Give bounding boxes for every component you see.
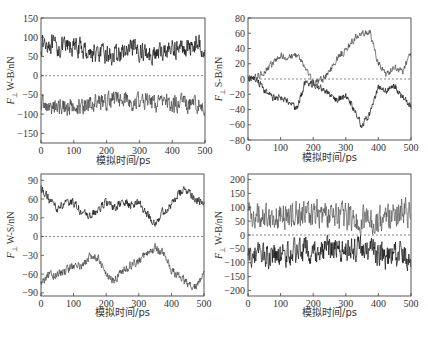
x-tick-label: 400: [164, 298, 179, 309]
y-tick-label: 150: [230, 188, 245, 199]
y-tick-label: −30: [22, 250, 38, 261]
y-axis-subscript: ⊥: [11, 246, 19, 252]
x-tick-label: 100: [273, 298, 288, 309]
figure-panels: 0100200300400500150100500−50−100−150模拟时间…: [0, 0, 428, 338]
y-axis-subscript: ⊥: [11, 92, 19, 98]
y-tick-label: −80: [229, 135, 245, 146]
series-line-upper: [41, 35, 205, 66]
y-axis-title: F⊥W-B/nN: [213, 211, 227, 260]
x-tick-label: 500: [198, 145, 213, 156]
y-tick-label: −100: [224, 257, 245, 268]
x-tick-label: 0: [39, 298, 44, 309]
x-tick-label: 400: [371, 298, 386, 309]
series-line-lower: [41, 243, 204, 290]
y-tick-label: −20: [229, 89, 245, 100]
y-tick-label: 30: [28, 212, 38, 223]
x-tick-label: 500: [404, 142, 419, 153]
y-tick-label: −60: [22, 269, 38, 280]
y-tick-label: −60: [229, 119, 245, 130]
x-tick-label: 500: [404, 298, 419, 309]
x-tick-label: 0: [246, 142, 251, 153]
y-tick-label: 50: [28, 51, 38, 62]
x-axis-title: 模拟时间/ps: [302, 306, 357, 318]
x-axis-title: 模拟时间/ps: [95, 306, 150, 318]
y-axis-subscript: ⊥: [219, 89, 227, 95]
y-tick-label: −90: [22, 287, 38, 298]
y-tick-label: 0: [33, 70, 38, 81]
y-tick-label: 40: [235, 43, 245, 54]
y-tick-label: 60: [28, 194, 38, 205]
series-line-lower: [248, 76, 411, 128]
panel-c: 01002003004005009060300−30−60−90模拟时间/psF…: [5, 174, 212, 318]
panel-d: 0100200300400500200150100500−50−100−150−…: [213, 174, 419, 318]
y-tick-label: −100: [17, 109, 38, 120]
y-tick-label: −150: [224, 271, 245, 282]
series-line-lower: [41, 91, 205, 116]
y-axis-unit: S-B/nN: [213, 57, 224, 88]
y-axis-unit: W-B/nN: [5, 57, 16, 91]
y-tick-label: −200: [224, 285, 245, 296]
panel-a: 0100200300400500150100500−50−100−150模拟时间…: [5, 13, 213, 167]
y-tick-label: 0: [33, 231, 38, 242]
y-tick-label: −150: [17, 128, 38, 139]
y-tick-label: −50: [229, 243, 245, 254]
y-tick-label: 100: [23, 32, 38, 43]
y-tick-label: −40: [229, 104, 245, 115]
y-tick-label: 150: [23, 13, 38, 24]
series-line-upper: [41, 186, 204, 227]
x-tick-label: 0: [246, 298, 251, 309]
y-axis-title: F⊥W-S/nN: [5, 212, 19, 260]
y-tick-label: 60: [235, 28, 245, 39]
y-tick-label: 0: [240, 74, 245, 85]
x-axis-title: 模拟时间/ps: [96, 154, 151, 166]
y-tick-label: 90: [28, 175, 38, 186]
x-tick-label: 100: [66, 298, 81, 309]
series-line-upper: [248, 30, 411, 86]
y-tick-label: 100: [230, 202, 245, 213]
y-tick-label: −50: [22, 89, 38, 100]
y-tick-label: 200: [230, 174, 245, 185]
y-axis-unit: W-B/nN: [213, 211, 224, 245]
series-line-upper: [248, 197, 411, 234]
x-tick-label: 500: [197, 298, 212, 309]
x-axis-title: 模拟时间/ps: [302, 151, 357, 163]
x-tick-label: 400: [165, 145, 180, 156]
y-axis-title: F⊥W-B/nN: [5, 57, 19, 106]
x-tick-label: 400: [371, 142, 386, 153]
y-tick-label: 50: [235, 216, 245, 227]
series-line-lower: [248, 235, 411, 271]
y-axis-unit: W-S/nN: [5, 212, 16, 245]
x-tick-label: 100: [273, 142, 288, 153]
y-axis-subscript: ⊥: [219, 247, 227, 253]
x-tick-label: 100: [66, 145, 81, 156]
y-axis-title: F⊥S-B/nN: [213, 57, 227, 103]
y-tick-label: 20: [235, 58, 245, 69]
y-tick-label: 0: [240, 230, 245, 241]
y-tick-label: 80: [235, 13, 245, 24]
panel-b: 0100200300400500806040200−20−40−60−80模拟时…: [213, 13, 419, 164]
x-tick-label: 0: [39, 145, 44, 156]
plot-frame: [41, 18, 205, 143]
